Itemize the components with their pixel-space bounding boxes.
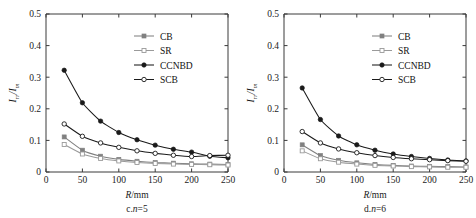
- y-tick-label-2: 0.2: [267, 104, 279, 114]
- data-point-scb-5: [391, 155, 395, 159]
- data-point-sr-7: [428, 165, 432, 169]
- x-tick-label-250: 250: [221, 175, 236, 185]
- data-point-ccnbd-4: [135, 138, 139, 142]
- series-line-cb: [302, 145, 466, 167]
- legend-label-scb: SCB: [398, 75, 416, 85]
- data-point-ccnbd-7: [189, 150, 193, 154]
- legend-label-sr: SR: [160, 46, 172, 56]
- data-point-legend-sr-0: [142, 49, 146, 53]
- y-axis-title: Irr/Im: [8, 83, 20, 103]
- data-point-scb-7: [427, 157, 431, 161]
- data-point-ccnbd-0: [62, 68, 66, 72]
- series-line-scb: [64, 124, 228, 157]
- series-cb: [300, 143, 468, 169]
- data-point-sr-4: [135, 161, 139, 165]
- data-point-sr-1: [318, 157, 322, 161]
- y-tick-label-3: 0.3: [29, 73, 41, 83]
- y-tick-label-1: 0.1: [267, 136, 279, 146]
- data-point-sr-2: [337, 160, 341, 164]
- x-tick-label-250: 250: [459, 175, 474, 185]
- data-point-ccnbd-2: [336, 134, 340, 138]
- data-point-scb-2: [98, 141, 102, 145]
- data-point-scb-1: [318, 141, 322, 145]
- data-point-scb-7: [189, 154, 193, 158]
- data-point-scb-0: [300, 129, 304, 133]
- data-point-sr-3: [117, 159, 121, 163]
- y-axis-ticks: 00.10.20.30.40.5: [267, 9, 466, 177]
- y-tick-label-3: 0.3: [267, 73, 279, 83]
- data-point-legend-sr-0: [380, 49, 384, 53]
- chart-panel-c: 05010015020025000.10.20.30.40.5CBSRCCNBD…: [0, 0, 238, 218]
- series-line-ccnbd: [64, 70, 228, 158]
- y-tick-label-4: 0.4: [267, 41, 279, 51]
- data-point-sr-6: [409, 165, 413, 169]
- data-point-cb-0: [300, 143, 304, 147]
- chart-svg-d: 05010015020025000.10.20.30.40.5CBSRCCNBD…: [238, 0, 476, 218]
- chart-panel-d: 05010015020025000.10.20.30.40.5CBSRCCNBD…: [238, 0, 476, 218]
- data-point-scb-3: [355, 151, 359, 155]
- x-tick-label-150: 150: [386, 175, 401, 185]
- x-tick-label-50: 50: [316, 175, 326, 185]
- legend-label-cb: CB: [398, 32, 411, 42]
- panel-caption: c.n=5: [126, 204, 148, 214]
- data-point-sr-5: [153, 161, 157, 165]
- data-point-sr-3: [355, 162, 359, 166]
- chart-svg-c: 05010015020025000.10.20.30.40.5CBSRCCNBD…: [0, 0, 238, 218]
- x-tick-label-200: 200: [422, 175, 437, 185]
- data-point-scb-1: [80, 134, 84, 138]
- data-point-scb-8: [446, 158, 450, 162]
- data-point-legend-cb-0: [380, 34, 384, 38]
- series-cb: [62, 135, 230, 166]
- data-point-sr-8: [446, 165, 450, 169]
- y-tick-label-0: 0: [36, 167, 41, 177]
- x-tick-label-50: 50: [78, 175, 88, 185]
- data-point-sr-1: [80, 152, 84, 156]
- panel-caption: d.n=6: [364, 204, 386, 214]
- x-tick-label-100: 100: [350, 175, 365, 185]
- data-point-scb-9: [464, 159, 468, 163]
- x-tick-label-0: 0: [282, 175, 287, 185]
- x-axis-title: R/mm: [124, 190, 149, 200]
- plot-area-c: 05010015020025000.10.20.30.40.5CBSRCCNBD…: [8, 9, 235, 214]
- data-point-scb-4: [135, 149, 139, 153]
- plot-area-d: 05010015020025000.10.20.30.40.5CBSRCCNBD…: [246, 9, 473, 214]
- data-point-ccnbd-3: [117, 130, 121, 134]
- series-ccnbd: [300, 86, 468, 163]
- data-point-legend-cb-0: [142, 34, 146, 38]
- data-point-sr-0: [300, 149, 304, 153]
- data-point-legend-scb-0: [142, 77, 146, 81]
- data-point-ccnbd-6: [171, 147, 175, 151]
- y-tick-label-0: 0: [274, 167, 279, 177]
- data-point-sr-8: [208, 163, 212, 167]
- series-line-scb: [302, 132, 466, 162]
- data-point-ccnbd-1: [318, 117, 322, 121]
- y-tick-label-4: 0.4: [29, 41, 41, 51]
- data-point-scb-9: [226, 153, 230, 157]
- legend-label-scb: SCB: [160, 75, 178, 85]
- data-point-ccnbd-4: [373, 148, 377, 152]
- data-point-scb-2: [336, 147, 340, 151]
- y-axis-title: Irr/Im: [246, 83, 258, 103]
- x-axis-title: R/mm: [362, 190, 387, 200]
- data-point-ccnbd-0: [300, 86, 304, 90]
- legend: CBSRCCNBDSCB: [372, 32, 431, 86]
- legend-label-cb: CB: [160, 32, 173, 42]
- y-tick-label-2: 0.2: [29, 104, 41, 114]
- legend-label-ccnbd: CCNBD: [398, 61, 431, 71]
- data-point-scb-5: [153, 151, 157, 155]
- x-tick-label-100: 100: [112, 175, 127, 185]
- series-line-ccnbd: [302, 88, 466, 161]
- series-line-cb: [64, 137, 228, 165]
- x-tick-label-0: 0: [44, 175, 49, 185]
- data-point-sr-0: [62, 143, 66, 147]
- series-scb: [62, 122, 230, 159]
- legend-label-sr: SR: [398, 46, 410, 56]
- y-axis-ticks: 00.10.20.30.40.5: [29, 9, 228, 177]
- data-point-sr-9: [226, 163, 230, 167]
- data-point-legend-ccnbd-0: [142, 63, 146, 67]
- data-point-scb-6: [171, 153, 175, 157]
- x-axis-ticks: 050100150200250: [44, 14, 236, 185]
- series-scb: [300, 129, 468, 163]
- data-point-ccnbd-2: [98, 119, 102, 123]
- data-point-sr-2: [99, 156, 103, 160]
